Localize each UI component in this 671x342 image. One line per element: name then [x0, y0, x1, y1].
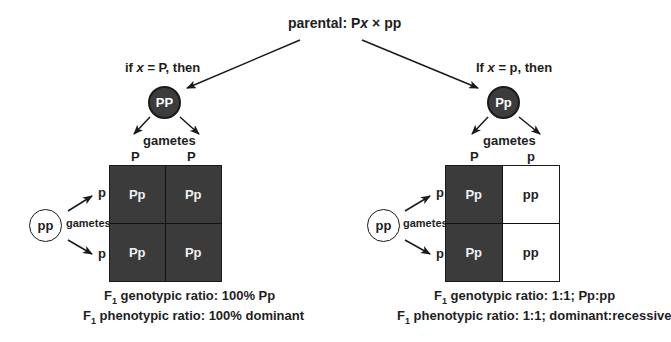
right-condition-label: If x = p, then [476, 60, 552, 75]
left-gametes-label: gametes [143, 133, 196, 148]
parental-prefix: parental: P [288, 15, 360, 31]
left-parent-circle: PP [148, 86, 181, 119]
left-condition-label: if x = P, then [125, 60, 200, 75]
right-parent-circle: Pp [487, 86, 520, 119]
left-cell-1: Pp [110, 166, 166, 224]
f-label: F [83, 308, 91, 323]
arrow-left-pp-row1 [68, 196, 92, 211]
right-row-allele-2: p [436, 246, 444, 261]
f-label: F [434, 288, 442, 303]
ratio-text: genotypic ratio: 1:1; Pp:pp [447, 288, 615, 303]
parental-cross-title: parental: Px × pp [288, 15, 401, 31]
arrow-left-gamete-1 [134, 117, 150, 134]
arrow-right-gamete-2 [519, 117, 540, 134]
right-gametes-label: gametes [483, 133, 536, 148]
cross-symbol: × [368, 15, 384, 31]
right-punnett-square: Pp pp Pp pp [445, 165, 560, 282]
f-label: F [397, 308, 405, 323]
right-col-allele-2: p [527, 149, 535, 164]
right-condition-rest: = p, then [495, 60, 552, 75]
left-recessive-parent-circle: pp [29, 209, 62, 242]
arrow-right-pp-row1 [405, 196, 430, 211]
left-row-allele-2: p [98, 246, 106, 261]
right-cell-3: Pp [446, 224, 503, 282]
left-condition-rest: = P, then [144, 60, 200, 75]
parental-unknown-allele: x [360, 15, 368, 31]
left-punnett-square: Pp Pp Pp Pp [109, 165, 222, 282]
ratio-text: phenotypic ratio: 100% dominant [96, 308, 304, 323]
left-col-allele-2: P [187, 149, 196, 164]
ratio-text: genotypic ratio: 100% Pp [117, 288, 275, 303]
left-recessive-gametes-label: gametes [66, 217, 111, 229]
arrow-right-gamete-1 [472, 117, 488, 134]
left-row-allele-1: p [98, 185, 106, 200]
right-cell-2: pp [503, 166, 560, 224]
arrow-parental-to-left [187, 40, 300, 88]
right-cell-1: Pp [446, 166, 503, 224]
right-col-allele-1: P [470, 149, 479, 164]
arrow-left-gamete-2 [180, 117, 199, 134]
left-phenotypic-ratio: F1 phenotypic ratio: 100% dominant [83, 308, 304, 326]
left-cell-3: Pp [110, 224, 166, 282]
parental-recessive: pp [384, 15, 401, 31]
left-cell-2: Pp [166, 166, 222, 224]
f-label: F [104, 288, 112, 303]
right-recessive-parent-circle: pp [367, 209, 400, 242]
right-phenotypic-ratio: F1 phenotypic ratio: 1:1; dominant:reces… [397, 308, 671, 326]
right-genotypic-ratio: F1 genotypic ratio: 1:1; Pp:pp [434, 288, 615, 306]
right-condition-x: x [488, 60, 495, 75]
ratio-text: phenotypic ratio: 1:1; dominant:recessiv… [410, 308, 671, 323]
left-condition-prefix: if [125, 60, 137, 75]
arrow-parental-to-right [362, 40, 478, 88]
left-condition-x: x [137, 60, 144, 75]
right-condition-prefix: If [476, 60, 488, 75]
left-col-allele-1: P [131, 149, 140, 164]
right-cell-4: pp [503, 224, 560, 282]
left-cell-4: Pp [166, 224, 222, 282]
right-recessive-gametes-label: gametes [403, 217, 448, 229]
left-genotypic-ratio: F1 genotypic ratio: 100% Pp [104, 288, 275, 306]
arrow-left-pp-row2 [68, 240, 92, 254]
arrow-right-pp-row2 [405, 240, 430, 254]
right-row-allele-1: p [436, 185, 444, 200]
